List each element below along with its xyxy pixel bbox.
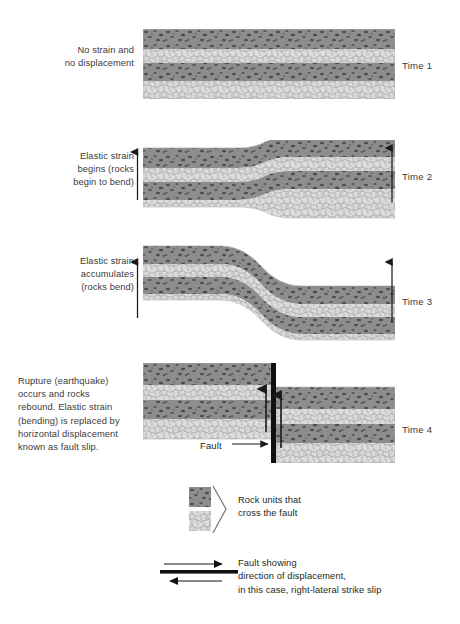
legend-light-unit-icon xyxy=(189,511,211,531)
time-4-label: Time 4 xyxy=(402,424,432,435)
time-4-rock-block xyxy=(143,363,395,463)
time-1-cross-section xyxy=(143,29,395,99)
time-4-left-block xyxy=(143,363,271,439)
time-3-description: Elastic strain accumulates (rocks bend) xyxy=(14,255,134,295)
time-4-cross-section xyxy=(143,363,395,463)
time-3-description-line-1: Elastic strain xyxy=(14,255,134,268)
time-2-label: Time 2 xyxy=(402,171,432,182)
time-4-description-line-2: occurs and rocks xyxy=(18,388,153,401)
time-4-description-line-5: horizontal displacement xyxy=(18,428,153,441)
time-2-description: Elastic strain begins (rocks begin to be… xyxy=(14,150,134,190)
fault-callout-label: Fault xyxy=(200,440,222,451)
time-3-description-line-3: (rocks bend) xyxy=(14,281,134,294)
time-3-rock-block xyxy=(143,244,395,344)
legend-dark-unit-icon xyxy=(189,487,211,507)
time-4-description-line-4: (bending) is replaced by xyxy=(18,415,153,428)
time-3-description-line-2: accumulates xyxy=(14,268,134,281)
time-1-description-line-2: no displacement xyxy=(14,57,134,70)
time-2-description-line-1: Elastic strain xyxy=(14,150,134,163)
time-1-label: Time 1 xyxy=(402,60,432,71)
legend-light-unit-swatch xyxy=(189,511,211,535)
time-4-description-line-6: known as fault slip. xyxy=(18,441,153,454)
time-2-description-line-3: begin to bend) xyxy=(14,176,134,189)
time-1-description-line-1: No strain and xyxy=(14,44,134,57)
time-2-rock-block xyxy=(143,140,395,222)
time-4-description-line-3: rebound. Elastic strain xyxy=(18,401,153,414)
legend-fault-line-3: in this case, right-lateral strike slip xyxy=(238,584,381,597)
legend-rock-units-line-1: Rock units that xyxy=(238,494,301,507)
legend-dark-unit-swatch xyxy=(189,487,211,511)
legend-brace-icon xyxy=(212,485,234,535)
time-3-label: Time 3 xyxy=(402,296,432,307)
time-3-cross-section xyxy=(143,244,395,344)
time-2-description-line-2: begins (rocks xyxy=(14,163,134,176)
time-1-description: No strain and no displacement xyxy=(14,44,134,70)
time-1-rock-block xyxy=(143,29,395,99)
legend-rock-units-line-2: cross the fault xyxy=(238,507,301,520)
legend-fault-text: Fault showing direction of displacement,… xyxy=(238,557,381,597)
time-4-description-line-1: Rupture (earthquake) xyxy=(18,375,153,388)
time-4-description: Rupture (earthquake) occurs and rocks re… xyxy=(18,375,153,454)
legend-fault-symbol-icon xyxy=(160,556,242,590)
figure-canvas: No strain and no displacement Time 1 Ela… xyxy=(0,0,460,624)
legend-fault-line-1: Fault showing xyxy=(238,557,381,570)
time-2-cross-section xyxy=(143,140,395,222)
legend-rock-units-text: Rock units that cross the fault xyxy=(238,494,301,521)
time-4-right-block xyxy=(276,387,395,463)
legend-fault-line-2: direction of displacement, xyxy=(238,570,381,583)
fault-plane xyxy=(271,363,276,463)
